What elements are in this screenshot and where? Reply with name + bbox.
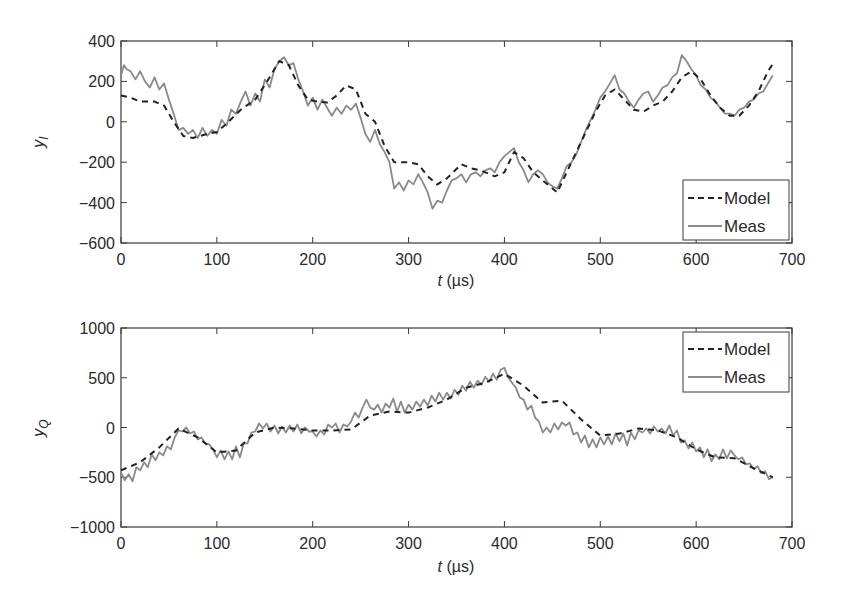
legend: Model Meas — [683, 332, 789, 392]
x-tick-label: 600 — [683, 535, 710, 552]
x-axis-label-unit: (µs) — [447, 558, 475, 575]
x-tick-label: 700 — [779, 251, 806, 268]
x-axis-label: t (µs) — [438, 558, 475, 575]
x-tick-label: 0 — [117, 535, 126, 552]
y-tick-label: 0 — [106, 114, 115, 131]
y-tick-label: −1000 — [70, 519, 115, 536]
y-tick-label: −400 — [79, 195, 115, 212]
x-tick-label: 400 — [491, 535, 518, 552]
legend-model-label: Model — [724, 189, 770, 208]
y-axis-label: yQ — [30, 419, 51, 437]
svg-text:yI: yI — [30, 136, 51, 149]
x-axis-label: t (µs) — [438, 272, 475, 289]
chart-panel-yq: 0100200300400500600700 −1000−50005001000… — [30, 320, 805, 575]
y-tick-label: −200 — [79, 154, 115, 171]
y-tick-label: 500 — [88, 370, 115, 387]
x-axis-label-unit: (µs) — [447, 272, 475, 289]
y-axis-label: yI — [30, 136, 51, 149]
x-tick-label: 600 — [683, 251, 710, 268]
legend-meas-label: Meas — [724, 217, 766, 236]
series-model-line — [121, 374, 773, 478]
svg-text:t (µs): t (µs) — [438, 272, 475, 289]
svg-text:yQ: yQ — [30, 419, 51, 437]
x-tick-label: 100 — [204, 535, 231, 552]
series-lines — [121, 368, 773, 481]
x-tick-label: 400 — [491, 251, 518, 268]
svg-text:t (µs): t (µs) — [438, 558, 475, 575]
y-tick-label: 200 — [88, 73, 115, 90]
y-tick-label: 400 — [88, 33, 115, 50]
y-tick-label: −500 — [79, 469, 115, 486]
series-lines — [121, 55, 775, 209]
y-tick-label: 1000 — [79, 320, 115, 337]
x-tick-label: 300 — [395, 251, 422, 268]
x-tick-label: 100 — [204, 251, 231, 268]
legend-meas-label: Meas — [724, 368, 766, 387]
chart-panel-yi: 0100200300400500600700 −600−400−20002004… — [30, 33, 805, 289]
x-tick-label: 700 — [779, 535, 806, 552]
figure: 0100200300400500600700 −600−400−20002004… — [0, 0, 845, 611]
y-tick-label: −600 — [79, 235, 115, 252]
legend-model-label: Model — [724, 340, 770, 359]
y-axis-label-sub: I — [37, 136, 51, 140]
legend: Model Meas — [683, 180, 789, 240]
x-tick-label: 200 — [299, 251, 326, 268]
y-axis-label-sub: Q — [37, 419, 51, 428]
series-meas-line — [121, 55, 773, 209]
x-tick-label: 500 — [587, 535, 614, 552]
y-tick-label: 0 — [106, 420, 115, 437]
x-tick-label: 0 — [117, 251, 126, 268]
x-tick-label: 200 — [299, 535, 326, 552]
series-meas-line — [121, 368, 773, 481]
x-tick-label: 500 — [587, 251, 614, 268]
x-tick-label: 300 — [395, 535, 422, 552]
